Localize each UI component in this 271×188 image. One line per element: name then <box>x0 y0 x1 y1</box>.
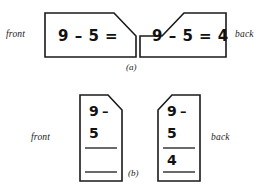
card-b-back-outline <box>158 95 200 181</box>
part-a-front-label: front <box>6 29 25 39</box>
card-b-front-minuend: 9 <box>89 103 99 119</box>
card-b-front-subtrahend: 5 <box>89 125 99 141</box>
caption-a: (a) <box>126 62 137 72</box>
figure-flashcards: front 9 – 5 = 9 – 5 = 4 back (a) front 9… <box>0 0 271 188</box>
card-b-back-answer: 4 <box>167 152 177 168</box>
part-a-back-label: back <box>235 29 254 39</box>
part-b-back-label: back <box>211 132 230 142</box>
part-b-front-label: front <box>31 132 50 142</box>
card-a-back-expression: 9 – 5 = 4 <box>152 27 229 45</box>
figure-vector-layer <box>0 0 271 188</box>
card-b-front-outline <box>80 95 122 181</box>
card-a-front-expression: 9 – 5 = <box>58 27 118 45</box>
card-b-back-subtrahend: 5 <box>167 125 177 141</box>
card-b-back-minuend: 9 <box>167 103 177 119</box>
card-b-back-operator: – <box>180 104 187 119</box>
caption-b: (b) <box>128 168 139 178</box>
card-b-front-operator: – <box>102 104 109 119</box>
